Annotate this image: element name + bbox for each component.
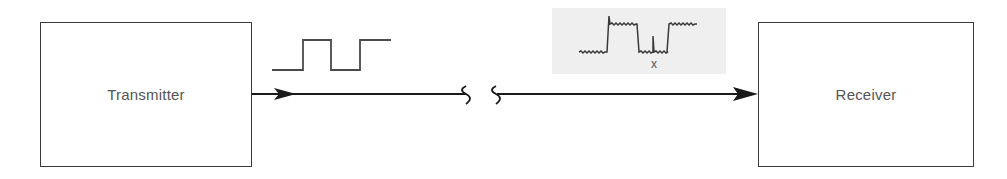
transmitted-pulse-waveform [272, 40, 391, 70]
diagram-connections: x [0, 0, 1007, 179]
error-marker-label: x [651, 57, 657, 71]
received-noisy-waveform [579, 16, 697, 53]
